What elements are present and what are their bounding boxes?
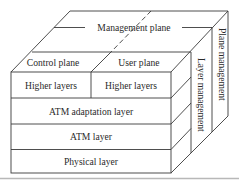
atm-reference-model-diagram: Management plane Control plane User plan… — [0, 0, 239, 186]
layer-management-label: Layer management — [196, 58, 207, 132]
control-plane-label: Control plane — [27, 57, 80, 68]
plane-management-label: Plane management — [217, 28, 228, 101]
management-plane-label: Management plane — [97, 22, 170, 33]
physical-layer-label: Physical layer — [64, 156, 119, 167]
atm-layer-label: ATM layer — [70, 131, 113, 142]
user-plane-label: User plane — [118, 57, 159, 68]
higher-layers-control-label: Higher layers — [25, 80, 77, 91]
atm-adaptation-layer-label: ATM adaptation layer — [49, 106, 134, 117]
higher-layers-user-label: Higher layers — [105, 80, 157, 91]
